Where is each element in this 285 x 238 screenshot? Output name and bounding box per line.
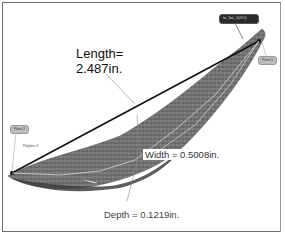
length-leader [106,74,135,104]
length-value: 2.487in. [76,61,123,76]
point-2-tag: Point 2 [10,125,29,134]
top-tag: lw_3wt_1(09.0) [219,14,259,24]
top-tag-leader [235,23,243,39]
scan-diagram [0,0,285,238]
point2-leader [12,133,16,171]
depth-label: Depth = 0.1219in. [104,209,179,220]
polyline-label: Polyline 2 [23,144,38,148]
length-label: Length= 2.487in. [76,46,123,76]
point5-leader [262,42,266,56]
width-label: Width = 0.5008in. [143,149,221,160]
length-label-text: Length= [76,46,123,61]
point-5-tag: Point 5 [258,56,277,65]
